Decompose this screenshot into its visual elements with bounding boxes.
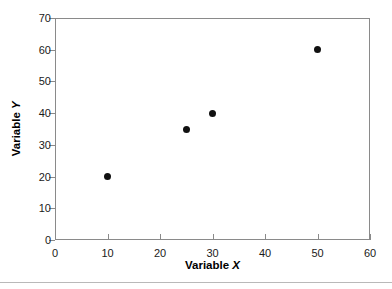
y-tick-label: 40 <box>39 108 51 119</box>
x-tick-mark <box>213 234 214 240</box>
x-tick-mark <box>265 234 266 240</box>
x-axis-label-symbol: X <box>232 259 240 271</box>
x-axis-label-prefix: Variable <box>185 259 229 271</box>
x-tick-mark <box>55 234 56 240</box>
x-tick-label: 0 <box>52 248 58 259</box>
data-point <box>209 110 216 117</box>
y-tick-label: 20 <box>39 171 51 182</box>
y-axis-label: Variable Y <box>9 18 23 240</box>
bottom-divider <box>0 282 392 283</box>
plot-area: 010203040506070 0102030405060 <box>55 18 370 240</box>
x-tick-label: 40 <box>259 248 271 259</box>
data-point <box>183 126 190 133</box>
x-axis-label: Variable X <box>55 260 370 272</box>
y-axis-label-symbol: Y <box>9 102 21 110</box>
x-tick-label: 10 <box>101 248 113 259</box>
x-tick-mark <box>160 234 161 240</box>
y-tick-label: 0 <box>45 235 51 246</box>
x-tick-label: 20 <box>154 248 166 259</box>
y-tick-label: 60 <box>39 44 51 55</box>
x-tick-label: 50 <box>311 248 323 259</box>
x-tick-mark <box>318 234 319 240</box>
y-tick-label: 50 <box>39 76 51 87</box>
x-tick-label: 30 <box>206 248 218 259</box>
y-tick-label: 10 <box>39 203 51 214</box>
y-tick-label: 30 <box>39 139 51 150</box>
x-tick-mark <box>370 234 371 240</box>
scatter-plot-figure: 010203040506070 0102030405060 Variable X… <box>0 0 392 289</box>
data-point <box>314 46 321 53</box>
data-point <box>104 173 111 180</box>
x-tick-mark <box>108 234 109 240</box>
y-tick-label: 70 <box>39 13 51 24</box>
y-axis-label-text: Variable Y <box>10 102 22 157</box>
x-tick-label: 60 <box>364 248 376 259</box>
y-axis-label-prefix: Variable <box>9 112 21 156</box>
